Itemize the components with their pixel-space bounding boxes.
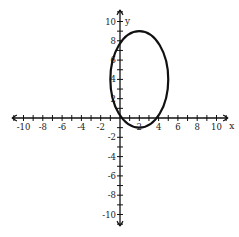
x-tick-label: -8 bbox=[39, 122, 47, 132]
y-tick-label: -8 bbox=[108, 190, 116, 200]
y-tick-label: -6 bbox=[108, 171, 116, 181]
x-axis-tick-labels: -10-8-6-4-2246810 bbox=[17, 122, 222, 132]
x-tick-label: 10 bbox=[211, 122, 222, 132]
y-tick-label: 10 bbox=[105, 17, 116, 27]
x-tick-label: -2 bbox=[97, 122, 105, 132]
x-axis-label: x bbox=[229, 121, 234, 131]
x-tick-label: -10 bbox=[17, 122, 31, 132]
x-tick-label: 8 bbox=[194, 122, 199, 132]
coordinate-plane: -10-8-6-4-2246810 108642-2-4-6-8-10 x y bbox=[0, 0, 239, 237]
y-tick-label: 8 bbox=[111, 36, 116, 46]
y-tick-label: -2 bbox=[108, 132, 116, 142]
y-tick-label: -10 bbox=[102, 210, 116, 220]
y-tick-label: -4 bbox=[108, 152, 116, 162]
x-tick-label: 6 bbox=[175, 122, 180, 132]
x-tick-label: -6 bbox=[58, 122, 66, 132]
x-tick-label: -4 bbox=[77, 122, 85, 132]
y-axis-label: y bbox=[124, 16, 131, 26]
x-tick-label: 4 bbox=[156, 122, 161, 132]
